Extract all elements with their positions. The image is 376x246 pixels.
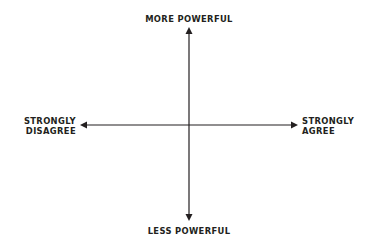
arrow-down-icon	[186, 214, 193, 221]
strongly-disagree-label: STRONGLY DISAGREE	[24, 116, 76, 136]
strongly-agree-line-2: AGREE	[302, 126, 354, 136]
strongly-disagree-line-1: STRONGLY	[24, 116, 76, 126]
strongly-disagree-line-2: DISAGREE	[24, 126, 76, 136]
arrow-right-icon	[291, 122, 298, 129]
arrow-left-icon	[80, 122, 87, 129]
less-powerful-label: LESS POWERFUL	[0, 226, 376, 236]
strongly-agree-line-1: STRONGLY	[302, 116, 354, 126]
strongly-agree-label: STRONGLY AGREE	[302, 116, 354, 136]
more-powerful-label: MORE POWERFUL	[0, 14, 376, 24]
arrow-up-icon	[186, 27, 193, 34]
